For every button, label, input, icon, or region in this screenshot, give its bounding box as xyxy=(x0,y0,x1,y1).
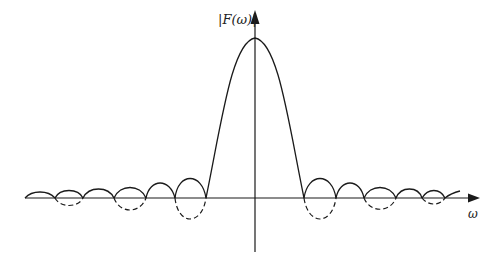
x-axis-arrow-icon xyxy=(468,194,480,203)
y-axis-label: |F(ω)| xyxy=(218,12,257,27)
axes xyxy=(25,22,470,252)
solid-magnitude-curve xyxy=(25,38,460,198)
x-axis-label: ω xyxy=(468,207,478,221)
sinc-diagram: |F(ω)| ω xyxy=(0,0,494,265)
dashed-negative-lobes xyxy=(55,198,445,219)
